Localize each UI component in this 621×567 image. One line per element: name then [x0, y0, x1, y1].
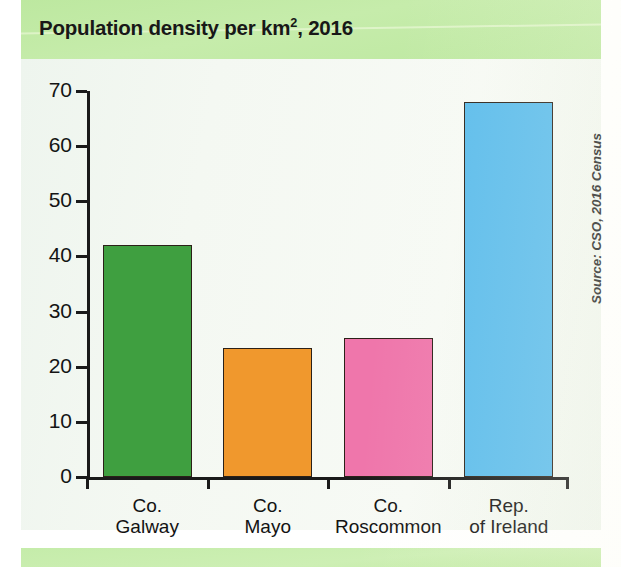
- x-axis-tick: [448, 477, 451, 489]
- x-axis-category-label: Co.Roscommon: [328, 495, 449, 538]
- category-label-line-2: of Ireland: [449, 516, 570, 537]
- y-axis-tick: [76, 90, 87, 93]
- bar-co-galway: [103, 245, 192, 477]
- x-axis-category-label: Rep.of Ireland: [449, 495, 570, 538]
- x-axis-category-label: Co.Mayo: [208, 495, 329, 538]
- y-axis-tick-label: 0: [28, 464, 72, 488]
- y-axis-tick: [76, 311, 87, 314]
- category-label-line-1: Co.: [208, 495, 329, 516]
- y-axis-tick: [76, 200, 87, 203]
- chart-title-tail: , 2016: [297, 16, 353, 39]
- plot-area: 010203040506070Co.GalwayCo.MayoCo.Roscom…: [21, 59, 601, 530]
- y-axis-tick: [76, 145, 87, 148]
- x-axis-tick: [207, 477, 210, 489]
- category-label-line-1: Co.: [328, 495, 449, 516]
- x-axis-tick: [327, 477, 330, 489]
- y-axis-tick: [76, 366, 87, 369]
- category-label-line-1: Co.: [87, 495, 208, 516]
- category-label-line-2: Galway: [87, 516, 208, 537]
- category-label-line-1: Rep.: [449, 495, 570, 516]
- x-axis-tick: [86, 477, 89, 489]
- y-axis-tick-label: 60: [28, 133, 72, 157]
- x-axis-category-label: Co.Galway: [87, 495, 208, 538]
- category-label-line-2: Roscommon: [328, 516, 449, 537]
- y-axis-tick-label: 20: [28, 354, 72, 378]
- chart-page: Population density per km2, 2016 0102030…: [0, 0, 621, 567]
- y-axis-line: [87, 91, 90, 480]
- y-axis-tick-label: 30: [28, 299, 72, 323]
- y-axis-tick-label: 10: [28, 409, 72, 433]
- y-axis-tick-label: 70: [28, 78, 72, 102]
- bar-co-mayo: [223, 348, 312, 477]
- y-axis-tick-label: 50: [28, 188, 72, 212]
- bar-rep-of-ireland: [464, 102, 553, 477]
- y-axis-tick: [76, 255, 87, 258]
- x-axis-end-tick: [566, 477, 569, 489]
- bar-co-roscommon: [344, 338, 433, 477]
- category-label-line-2: Mayo: [208, 516, 329, 537]
- source-annotation: Source: CSO, 2016 Census: [589, 133, 604, 304]
- chart-title: Population density per km2, 2016: [39, 16, 353, 40]
- y-axis-tick: [76, 421, 87, 424]
- bottom-band: [21, 548, 601, 567]
- y-axis-tick-label: 40: [28, 243, 72, 267]
- chart-title-main: Population density per km: [39, 16, 290, 39]
- chart-panel: Population density per km2, 2016 0102030…: [21, 0, 601, 540]
